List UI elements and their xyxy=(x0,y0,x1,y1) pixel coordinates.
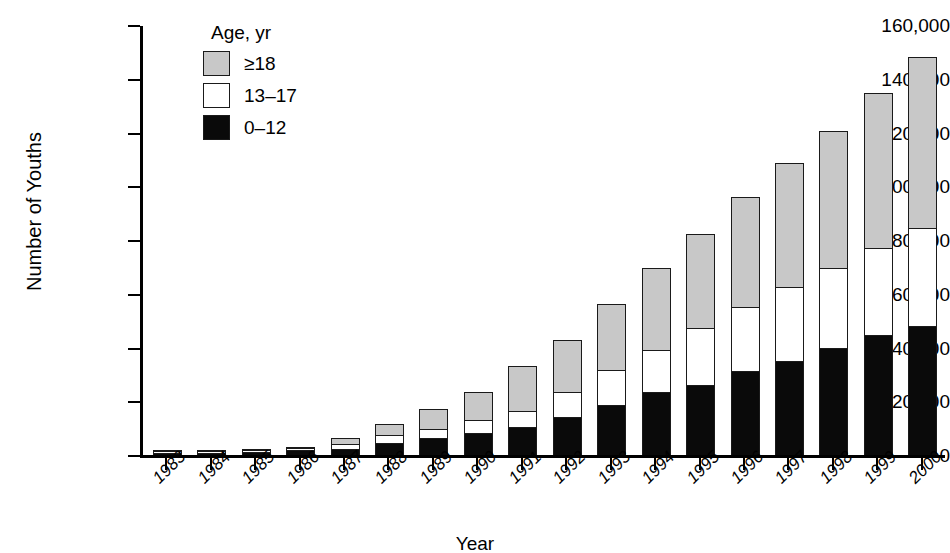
legend-item: ≥18 xyxy=(203,51,363,76)
bar-segment-age-13-17 xyxy=(864,249,893,336)
bar-1998 xyxy=(819,131,848,456)
y-tick-mark xyxy=(128,133,140,135)
bar-segment-age-13-17 xyxy=(642,351,671,393)
bar-segment-age-13-17 xyxy=(419,430,448,439)
bar-segment-age-13-17 xyxy=(731,308,760,373)
bar-segment-age-13-17 xyxy=(375,436,404,444)
stacked-bar-chart-figure: Number of Youths 020,00040,00060,00080,0… xyxy=(0,0,950,553)
bar-segment-age-13-17 xyxy=(464,421,493,434)
bar-segment-age-0-12 xyxy=(775,362,804,456)
bar-segment-age-13-17 xyxy=(686,329,715,385)
white-swatch xyxy=(203,83,230,108)
bar-segment-age-18-plus xyxy=(819,131,848,269)
bar-segment-age-13-17 xyxy=(553,393,582,419)
bar-segment-age-13-17 xyxy=(819,269,848,348)
legend-item-label: 13–17 xyxy=(244,86,297,105)
bar-segment-age-18-plus xyxy=(775,163,804,288)
bar-segment-age-18-plus xyxy=(331,438,360,445)
y-tick-mark xyxy=(128,79,140,81)
y-tick-mark xyxy=(128,455,140,457)
y-tick-mark xyxy=(128,240,140,242)
bar-1991 xyxy=(508,366,537,456)
bar-segment-age-18-plus xyxy=(686,234,715,329)
y-tick-mark xyxy=(128,25,140,27)
bar-segment-age-18-plus xyxy=(553,340,582,392)
bar-segment-age-0-12 xyxy=(686,386,715,456)
bar-segment-age-13-17 xyxy=(597,371,626,406)
bar-segment-age-18-plus xyxy=(731,197,760,307)
bar-1995 xyxy=(686,234,715,456)
bar-segment-age-18-plus xyxy=(908,57,937,229)
bar-segment-age-13-17 xyxy=(908,229,937,327)
bar-1990 xyxy=(464,392,493,456)
bar-segment-age-0-12 xyxy=(864,336,893,456)
y-axis-title: Number of Youths xyxy=(23,82,46,342)
legend-title: Age, yr xyxy=(211,22,363,44)
legend-items: ≥1813–170–12 xyxy=(203,51,363,140)
y-tick-mark xyxy=(128,401,140,403)
bar-1993 xyxy=(597,304,626,456)
legend-item-label: ≥18 xyxy=(244,54,276,73)
bar-segment-age-13-17 xyxy=(508,412,537,428)
bar-segment-age-18-plus xyxy=(597,304,626,371)
bar-1997 xyxy=(775,163,804,456)
bar-segment-age-0-12 xyxy=(731,372,760,456)
black-swatch xyxy=(203,115,230,140)
bar-segment-age-18-plus xyxy=(375,424,404,436)
bar-1992 xyxy=(553,340,582,456)
legend: Age, yr ≥1813–170–12 xyxy=(203,22,363,147)
x-axis-title: Year xyxy=(0,533,950,553)
bar-segment-age-18-plus xyxy=(464,392,493,422)
bar-1996 xyxy=(731,197,760,456)
bar-segment-age-18-plus xyxy=(508,366,537,412)
bar-segment-age-18-plus xyxy=(419,409,448,431)
bar-segment-age-0-12 xyxy=(908,327,937,456)
y-tick-mark xyxy=(128,348,140,350)
bar-segment-age-13-17 xyxy=(775,288,804,362)
y-tick-mark xyxy=(128,294,140,296)
gray-swatch xyxy=(203,51,230,76)
y-tick-mark xyxy=(128,186,140,188)
legend-item: 13–17 xyxy=(203,83,363,108)
bar-segment-age-0-12 xyxy=(819,349,848,457)
legend-item-label: 0–12 xyxy=(244,118,286,137)
bar-segment-age-18-plus xyxy=(642,268,671,351)
bar-segment-age-0-12 xyxy=(642,393,671,456)
bar-2000 xyxy=(908,57,937,456)
bar-1994 xyxy=(642,268,671,456)
bar-segment-age-18-plus xyxy=(864,93,893,249)
bar-1999 xyxy=(864,93,893,456)
legend-item: 0–12 xyxy=(203,115,363,140)
